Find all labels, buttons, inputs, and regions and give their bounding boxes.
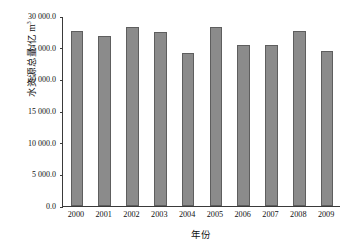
x-axis-tick-label-2005: 2005 bbox=[200, 210, 230, 219]
bar-2009 bbox=[321, 51, 334, 206]
bar-2005 bbox=[210, 27, 223, 206]
y-axis-tick-mark bbox=[60, 48, 64, 49]
x-axis-tick-label-2002: 2002 bbox=[117, 210, 147, 219]
x-axis-tick-label-2009: 2009 bbox=[311, 210, 341, 219]
bar-2001 bbox=[98, 36, 111, 206]
x-axis-tick-label-2001: 2001 bbox=[89, 210, 119, 219]
y-axis-tick-mark bbox=[60, 112, 64, 113]
plot-inner bbox=[63, 17, 340, 206]
bar-2003 bbox=[154, 32, 167, 206]
y-axis-tick-label: 5 000.0 bbox=[12, 171, 56, 179]
bar-2008 bbox=[293, 31, 306, 206]
x-axis-tick-label-2004: 2004 bbox=[172, 210, 202, 219]
y-axis-tick-labels: 0.05 000.010 000.015 000.020 000.025 000… bbox=[8, 0, 56, 247]
y-axis-tick-label: 15 000.0 bbox=[12, 108, 56, 116]
x-axis-tick-label-2008: 2008 bbox=[283, 210, 313, 219]
plot-area bbox=[62, 17, 340, 207]
y-axis-tick-label: 30 000.0 bbox=[12, 13, 56, 21]
bar-2002 bbox=[126, 27, 139, 206]
bar-chart-figure: 水资源总量/亿 m3 0.05 000.010 000.015 000.020 … bbox=[0, 0, 352, 247]
bar-2006 bbox=[237, 45, 250, 207]
y-axis-tick-mark bbox=[60, 207, 64, 208]
x-axis-tick-label-2003: 2003 bbox=[144, 210, 174, 219]
x-axis-tick-label-2007: 2007 bbox=[256, 210, 286, 219]
y-axis-tick-label: 20 000.0 bbox=[12, 76, 56, 84]
x-axis-tick-label-2000: 2000 bbox=[61, 210, 91, 219]
y-axis-tick-mark bbox=[60, 80, 64, 81]
bar-2000 bbox=[71, 31, 84, 206]
y-axis-tick-label: 0.0 bbox=[12, 203, 56, 211]
y-axis-tick-mark bbox=[60, 175, 64, 176]
y-axis-tick-label: 25 000.0 bbox=[12, 45, 56, 53]
x-axis-title: 年份 bbox=[62, 227, 340, 241]
bar-2007 bbox=[265, 45, 278, 206]
bar-2004 bbox=[182, 53, 195, 206]
x-axis-tick-label-2006: 2006 bbox=[228, 210, 258, 219]
y-axis-tick-mark-top bbox=[60, 17, 64, 18]
y-axis-tick-mark bbox=[60, 143, 64, 144]
y-axis-tick-label: 10 000.0 bbox=[12, 140, 56, 148]
